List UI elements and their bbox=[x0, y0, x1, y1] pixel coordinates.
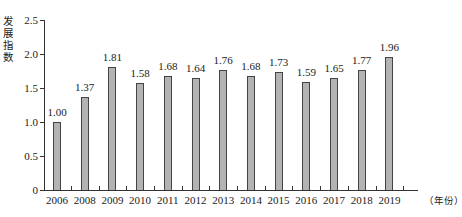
bar bbox=[275, 72, 283, 190]
x-tick bbox=[265, 186, 266, 190]
x-tick bbox=[99, 186, 100, 190]
bar bbox=[219, 70, 227, 190]
x-tick bbox=[403, 186, 404, 190]
y-tick bbox=[40, 88, 44, 89]
y-tick-label: 1.5 bbox=[14, 83, 38, 94]
bar bbox=[247, 76, 255, 190]
x-tick bbox=[292, 186, 293, 190]
value-label: 1.77 bbox=[342, 55, 382, 66]
value-label: 1.96 bbox=[369, 42, 409, 53]
value-label: 1.81 bbox=[92, 52, 132, 63]
y-tick bbox=[40, 20, 44, 21]
x-tick bbox=[126, 186, 127, 190]
bar bbox=[302, 82, 310, 190]
x-tick-label: 2019 bbox=[369, 195, 409, 206]
x-tick bbox=[209, 186, 210, 190]
bar bbox=[192, 78, 200, 190]
bar bbox=[164, 76, 172, 190]
x-tick bbox=[376, 186, 377, 190]
y-tick bbox=[40, 156, 44, 157]
x-tick bbox=[320, 186, 321, 190]
x-tick bbox=[182, 186, 183, 190]
y-tick-label: 0.5 bbox=[14, 151, 38, 162]
bar bbox=[81, 97, 89, 190]
x-tick bbox=[71, 186, 72, 190]
x-axis-unit-label: （年份） bbox=[424, 195, 462, 206]
bar bbox=[330, 78, 338, 190]
x-tick bbox=[348, 186, 349, 190]
y-tick-label: 1.0 bbox=[14, 117, 38, 128]
y-tick bbox=[40, 122, 44, 123]
bar bbox=[358, 70, 366, 190]
x-axis bbox=[44, 190, 418, 191]
bar bbox=[385, 57, 393, 190]
y-tick-label: 2.5 bbox=[14, 15, 38, 26]
y-tick bbox=[40, 54, 44, 55]
value-label: 1.37 bbox=[65, 82, 105, 93]
x-tick bbox=[154, 186, 155, 190]
x-tick bbox=[237, 186, 238, 190]
bar bbox=[108, 67, 116, 190]
cropped-caption-line bbox=[0, 0, 448, 3]
bar bbox=[136, 83, 144, 190]
y-tick-label: 0 bbox=[14, 185, 38, 196]
y-tick bbox=[40, 190, 44, 191]
y-tick-label: 2.0 bbox=[14, 49, 38, 60]
value-label: 1.00 bbox=[37, 107, 77, 118]
bar bbox=[53, 122, 61, 190]
y-axis bbox=[44, 20, 45, 190]
